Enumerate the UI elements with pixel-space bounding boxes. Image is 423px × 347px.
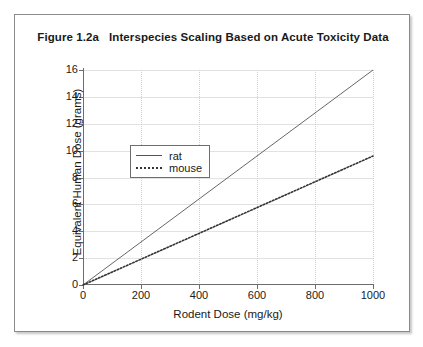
chart-title: Figure 1.2a Interspecies Scaling Based o… — [15, 31, 411, 43]
y-axis-title: Equivalent Human Dose (grams) — [71, 82, 83, 262]
x-tick-label: 1000 — [343, 289, 403, 301]
x-tick-label: 0 — [53, 289, 113, 301]
legend-line-dotted-icon — [136, 163, 162, 172]
y-tick-label: 16 — [18, 63, 78, 75]
gridline-vertical — [373, 70, 375, 285]
x-tick-label: 200 — [111, 289, 171, 301]
y-tick-label: 14 — [18, 90, 78, 102]
x-tick-label: 400 — [169, 289, 229, 301]
figure-frame: Figure 1.2a Interspecies Scaling Based o… — [14, 14, 410, 332]
y-tick-label: 12 — [18, 117, 78, 129]
y-tick-label: 6 — [18, 197, 78, 209]
series-lines — [83, 70, 373, 285]
y-tick-label: 4 — [18, 224, 78, 236]
series-line-mouse — [83, 156, 373, 285]
y-tick-label: 8 — [18, 171, 78, 183]
x-tick-label: 600 — [227, 289, 287, 301]
legend-item-rat: rat — [136, 150, 202, 161]
legend-label-mouse: mouse — [169, 162, 202, 174]
x-tick-label: 800 — [285, 289, 345, 301]
x-axis-title: Rodent Dose (mg/kg) — [83, 308, 373, 320]
y-tick-label: 10 — [18, 144, 78, 156]
y-tick-label: 2 — [18, 251, 78, 263]
legend-label-rat: rat — [169, 150, 182, 162]
series-line-rat — [83, 70, 373, 285]
plot-area: 0246810121416 02004006008001000 rat mous… — [83, 70, 373, 285]
legend-item-mouse: mouse — [136, 162, 202, 173]
chart-legend: rat mouse — [130, 145, 210, 178]
legend-line-solid-icon — [136, 151, 162, 160]
